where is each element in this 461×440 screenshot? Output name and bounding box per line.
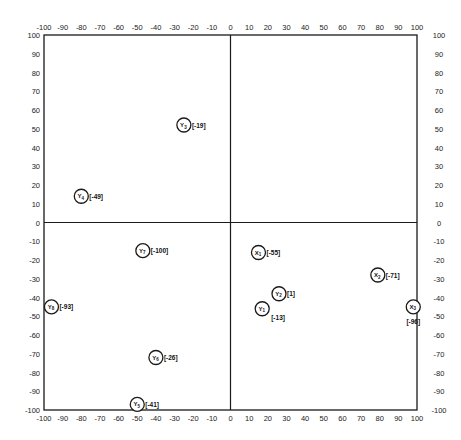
y-tick-label-right: 0 bbox=[437, 219, 441, 228]
point-bracket-value: [-41] bbox=[145, 401, 159, 409]
x-tick-label-top: -10 bbox=[206, 23, 217, 32]
y-tick-label-left: 100 bbox=[27, 31, 40, 40]
x-tick-label-top: 0 bbox=[228, 23, 232, 32]
y-tick-label-right: -20 bbox=[434, 256, 445, 265]
point-bracket-value: [-55] bbox=[266, 249, 280, 257]
x-tick-label-bottom: 90 bbox=[394, 414, 402, 423]
y-tick-label-right: -60 bbox=[434, 331, 445, 340]
x-tick-label-top: 20 bbox=[264, 23, 272, 32]
y-tick-label-left: 10 bbox=[32, 200, 40, 209]
y-tick-label-right: 40 bbox=[435, 144, 443, 153]
x-tick-label-bottom: -70 bbox=[95, 414, 106, 423]
point-bracket-value: [-19] bbox=[192, 122, 206, 130]
y-tick-label-left: -60 bbox=[29, 331, 40, 340]
x-tick-label-bottom: -30 bbox=[169, 414, 180, 423]
x-tick-label-bottom: -20 bbox=[188, 414, 199, 423]
y-tick-label-left: -90 bbox=[29, 387, 40, 396]
x-tick-label-bottom: 100 bbox=[411, 414, 424, 423]
y-tick-label-right: 60 bbox=[435, 106, 443, 115]
data-point-y7: Y7[-100] bbox=[136, 244, 168, 258]
y-tick-label-left: -100 bbox=[25, 406, 40, 415]
x-tick-label-top: 30 bbox=[282, 23, 290, 32]
point-bracket-value: [-26] bbox=[164, 354, 178, 362]
scatter-chart: -100-90-80-70-60-50-40-30-20-10010203040… bbox=[0, 0, 461, 440]
x-tick-label-top: -90 bbox=[57, 23, 68, 32]
point-bracket-value: [-13] bbox=[271, 314, 285, 322]
x-tick-label-bottom: -60 bbox=[113, 414, 124, 423]
y-tick-label-right: -30 bbox=[434, 275, 445, 284]
x-tick-label-top: -40 bbox=[150, 23, 161, 32]
x-tick-label-bottom: -80 bbox=[76, 414, 87, 423]
x-tick-label-bottom: 10 bbox=[245, 414, 253, 423]
y-tick-label-left: 80 bbox=[32, 69, 40, 78]
x-tick-label-top: 40 bbox=[301, 23, 309, 32]
x-tick-label-bottom: 30 bbox=[282, 414, 290, 423]
y-tick-label-right: -50 bbox=[434, 312, 445, 321]
y-tick-label-left: 70 bbox=[32, 87, 40, 96]
y-tick-label-right: 90 bbox=[435, 50, 443, 59]
y-tick-label-right: 50 bbox=[435, 125, 443, 134]
y-tick-label-left: 0 bbox=[36, 219, 40, 228]
y-tick-label-right: 20 bbox=[435, 181, 443, 190]
data-point-y1: Y1[-13] bbox=[255, 302, 285, 322]
y-tick-label-right: -70 bbox=[434, 350, 445, 359]
y-tick-label-left: -70 bbox=[29, 350, 40, 359]
data-point-y8: Y8[-93] bbox=[44, 300, 73, 314]
x-tick-label-bottom: 40 bbox=[301, 414, 309, 423]
point-bracket-value: [-93] bbox=[59, 303, 73, 311]
x-tick-label-top: -70 bbox=[95, 23, 106, 32]
y-tick-label-left: 30 bbox=[32, 162, 40, 171]
x-tick-label-top: -60 bbox=[113, 23, 124, 32]
y-tick-label-left: -40 bbox=[29, 294, 40, 303]
y-tick-label-left: 20 bbox=[32, 181, 40, 190]
x-tick-label-bottom: 20 bbox=[264, 414, 272, 423]
y-tick-label-left: -20 bbox=[29, 256, 40, 265]
y-tick-label-right: -40 bbox=[434, 294, 445, 303]
y-tick-label-right: 10 bbox=[435, 200, 443, 209]
point-bracket-value: [1] bbox=[287, 290, 295, 298]
data-point-y3: Y3[-19] bbox=[177, 118, 206, 132]
x-tick-label-top: -20 bbox=[188, 23, 199, 32]
x-tick-label-bottom: 0 bbox=[228, 414, 232, 423]
y-tick-label-left: 40 bbox=[32, 144, 40, 153]
x-tick-label-top: 90 bbox=[394, 23, 402, 32]
x-tick-label-top: 70 bbox=[357, 23, 365, 32]
x-tick-label-top: 60 bbox=[338, 23, 346, 32]
x-tick-label-bottom: 60 bbox=[338, 414, 346, 423]
x-axis-top-ticks: -100-90-80-70-60-50-40-30-20-10010203040… bbox=[36, 23, 423, 32]
x-tick-label-top: -50 bbox=[132, 23, 143, 32]
data-point-x1: X1[-55] bbox=[251, 246, 280, 260]
y-tick-label-right: 70 bbox=[435, 87, 443, 96]
y-axis-right-ticks: 1009080706050403020100-10-20-30-40-50-60… bbox=[431, 31, 446, 415]
x-tick-label-top: 80 bbox=[376, 23, 384, 32]
y-tick-label-right: 80 bbox=[435, 69, 443, 78]
point-bracket-value: [-71] bbox=[386, 272, 400, 280]
y-tick-label-right: 30 bbox=[435, 162, 443, 171]
data-point-y4: Y4[-49] bbox=[74, 189, 103, 203]
x-tick-label-top: 100 bbox=[411, 23, 424, 32]
data-point-x3: X3[-96] bbox=[406, 300, 420, 326]
y-tick-label-right: -100 bbox=[431, 406, 446, 415]
x-tick-label-bottom: 50 bbox=[320, 414, 328, 423]
y-tick-label-left: 50 bbox=[32, 125, 40, 134]
x-tick-label-top: -30 bbox=[169, 23, 180, 32]
y-tick-label-left: -30 bbox=[29, 275, 40, 284]
y-tick-label-left: 60 bbox=[32, 106, 40, 115]
y-tick-label-right: 100 bbox=[433, 31, 446, 40]
x-tick-label-top: 50 bbox=[320, 23, 328, 32]
point-bracket-value: [-96] bbox=[406, 318, 420, 326]
x-tick-label-top: -80 bbox=[76, 23, 87, 32]
y-tick-label-left: -80 bbox=[29, 369, 40, 378]
x-tick-label-bottom: 80 bbox=[376, 414, 384, 423]
data-points: Y3[-19]Y4[-49]Y7[-100]Y8[-93]Y6[-26]Y5[-… bbox=[44, 118, 420, 411]
point-bracket-value: [-49] bbox=[89, 193, 103, 201]
y-tick-label-left: -50 bbox=[29, 312, 40, 321]
y-axis-left-ticks: 1009080706050403020100-10-20-30-40-50-60… bbox=[25, 31, 40, 415]
data-point-y2: Y2[1] bbox=[272, 287, 295, 301]
y-tick-label-left: 90 bbox=[32, 50, 40, 59]
y-tick-label-left: -10 bbox=[29, 237, 40, 246]
data-point-y5: Y5[-41] bbox=[130, 397, 159, 411]
data-point-x2: X2[-71] bbox=[371, 268, 400, 282]
x-tick-label-bottom: -10 bbox=[206, 414, 217, 423]
x-tick-label-bottom: -40 bbox=[150, 414, 161, 423]
